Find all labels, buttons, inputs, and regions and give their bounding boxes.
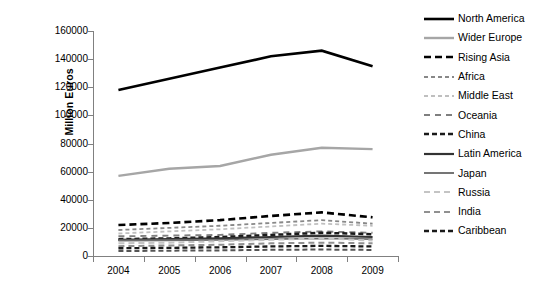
y-tick-label: 20000 (30, 223, 88, 233)
y-tick-mark (88, 172, 93, 173)
x-tick-mark (144, 257, 145, 262)
legend-swatch-icon (424, 186, 454, 198)
y-tick-label: 160000 (30, 26, 88, 36)
legend-swatch-icon (424, 167, 454, 179)
series-line (118, 51, 372, 90)
legend-swatch-icon (424, 32, 454, 44)
series-line (118, 246, 372, 248)
legend-item-label: Middle East (458, 90, 513, 101)
series-line (118, 238, 372, 243)
y-tick-mark (88, 115, 93, 116)
series-line (118, 243, 372, 247)
legend-item-india[interactable]: India (424, 202, 557, 221)
legend-item-label: Oceania (458, 110, 497, 121)
series-line (118, 233, 372, 239)
legend-item-china[interactable]: China (424, 125, 557, 144)
legend-item-north-america[interactable]: North America (424, 9, 557, 28)
legend-item-russia[interactable]: Russia (424, 183, 557, 202)
legend-swatch-icon (424, 51, 454, 63)
y-tick-label: 40000 (30, 195, 88, 205)
series-line (118, 250, 372, 252)
legend-item-oceania[interactable]: Oceania (424, 105, 557, 124)
legend-item-wider-europe[interactable]: Wider Europe (424, 28, 557, 47)
legend-item-label: Russia (458, 187, 490, 198)
legend-item-japan[interactable]: Japan (424, 163, 557, 182)
legend-item-latin-america[interactable]: Latin America (424, 144, 557, 163)
x-tick-mark (195, 257, 196, 262)
x-tick-mark (398, 257, 399, 262)
x-tick-mark (93, 257, 94, 262)
y-tick-label: 120000 (30, 82, 88, 92)
x-tick-mark (246, 257, 247, 262)
x-tick-mark (296, 257, 297, 262)
series-line (118, 231, 372, 236)
legend-item-label: Japan (458, 168, 487, 179)
legend-swatch-icon (424, 148, 454, 160)
series-line (118, 148, 372, 176)
legend-swatch-icon (424, 109, 454, 121)
x-tick-mark (347, 257, 348, 262)
legend-swatch-icon (424, 90, 454, 102)
series-line (118, 220, 372, 230)
legend-item-caribbean[interactable]: Caribbean (424, 221, 557, 240)
legend-item-label: Wider Europe (458, 32, 522, 43)
legend-item-middle-east[interactable]: Middle East (424, 86, 557, 105)
legend-swatch-icon (424, 225, 454, 237)
legend-item-label: India (458, 206, 481, 217)
chart-legend: North AmericaWider EuropeRising AsiaAfri… (424, 9, 557, 241)
legend-item-africa[interactable]: Africa (424, 67, 557, 86)
legend-item-label: North America (458, 13, 525, 24)
legend-swatch-icon (424, 206, 454, 218)
y-tick-mark (88, 144, 93, 145)
y-tick-mark (88, 31, 93, 32)
legend-item-label: Caribbean (458, 225, 506, 236)
y-tick-label: 140000 (30, 54, 88, 64)
y-tick-mark (88, 200, 93, 201)
y-tick-mark (88, 59, 93, 60)
legend-item-label: Rising Asia (458, 52, 510, 63)
legend-swatch-icon (424, 13, 454, 25)
legend-item-label: Latin America (458, 148, 522, 159)
y-tick-label: 80000 (30, 139, 88, 149)
legend-item-label: Africa (458, 71, 485, 82)
x-tick-label: 2009 (343, 265, 403, 276)
y-tick-mark (88, 87, 93, 88)
legend-swatch-icon (424, 71, 454, 83)
y-tick-label: 100000 (30, 110, 88, 120)
y-tick-label: 0 (30, 251, 88, 261)
series-line (118, 236, 372, 240)
y-tick-mark (88, 228, 93, 229)
series-line (118, 238, 372, 240)
line-chart: Million Euros 02000040000600008000010000… (0, 0, 557, 292)
legend-swatch-icon (424, 128, 454, 140)
series-line (118, 212, 372, 225)
legend-item-label: China (458, 129, 485, 140)
y-axis-tick-labels: 0200004000060000800001000001200001400001… (30, 0, 88, 292)
series-line (118, 224, 372, 234)
y-tick-label: 60000 (30, 167, 88, 177)
legend-item-rising-asia[interactable]: Rising Asia (424, 48, 557, 67)
